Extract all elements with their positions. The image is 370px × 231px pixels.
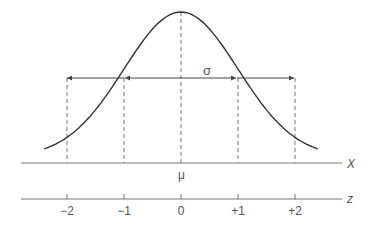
- z-tick-label: 0: [178, 204, 185, 218]
- normal-distribution-diagram: X μ z −2−10+1+2 σ: [0, 0, 370, 231]
- x-axis-label: X: [346, 157, 356, 171]
- sigma-label: σ: [203, 63, 211, 78]
- mu-label: μ: [178, 168, 185, 182]
- z-tick-label: −1: [117, 204, 131, 218]
- z-tick-label: +2: [288, 204, 302, 218]
- z-tick-label: −2: [60, 204, 74, 218]
- z-axis-label: z: [346, 192, 353, 206]
- z-tick-label: +1: [231, 204, 245, 218]
- bell-curve: [44, 12, 318, 149]
